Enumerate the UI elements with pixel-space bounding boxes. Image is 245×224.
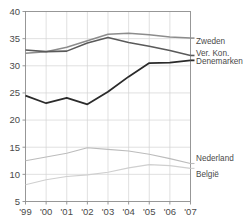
y-tick-label: 30 [9, 60, 20, 71]
y-tick-label: 10 [9, 169, 20, 180]
legend-label-nederland: Nederland [196, 154, 234, 163]
grid-lines [26, 12, 191, 202]
legend-label-belgie: België [196, 170, 219, 179]
y-tick-label: 15 [9, 142, 20, 153]
x-tick-label: '03 [102, 206, 114, 217]
y-tick-label: 20 [9, 114, 20, 125]
x-tick-label: '99 [19, 206, 31, 217]
x-axis-ticks: '99'00'01'02'03'04'05'06'07 [19, 202, 196, 218]
legend-label-denemarken: Denemarken [196, 57, 243, 66]
x-tick-label: '02 [81, 206, 93, 217]
chart-canvas: 403530252015105 '99'00'01'02'03'04'05'06… [0, 0, 245, 224]
x-tick-label: '07 [184, 206, 196, 217]
x-tick-label: '05 [143, 206, 155, 217]
x-tick-label: '00 [40, 206, 52, 217]
x-tick-label: '01 [61, 206, 73, 217]
x-tick-label: '04 [122, 206, 134, 217]
legend-label-zweden: Zweden [196, 37, 226, 46]
y-tick-label: 35 [9, 33, 20, 44]
x-tick-label: '06 [164, 206, 176, 217]
chart-legend: ZwedenVer. Kon.DenemarkenNederlandBelgië [191, 37, 244, 179]
y-axis-ticks: 403530252015105 [9, 6, 25, 207]
y-tick-label: 40 [9, 6, 20, 17]
line-chart: 403530252015105 '99'00'01'02'03'04'05'06… [0, 0, 245, 224]
y-tick-label: 25 [9, 87, 20, 98]
